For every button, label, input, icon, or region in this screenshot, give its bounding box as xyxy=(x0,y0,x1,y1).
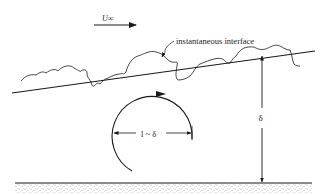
instantaneous-interface-curve xyxy=(21,45,300,86)
eddy-arrowhead-icon xyxy=(156,91,166,97)
thickness-dimension: δ xyxy=(259,56,263,182)
interface-label: instantaneous interface xyxy=(176,36,254,46)
boundary-layer-diagram: U∞ instantaneous interface l ~ δ δ xyxy=(0,0,325,195)
eddy-scale-label: l ~ δ xyxy=(141,129,156,139)
thickness-label: δ xyxy=(259,113,263,123)
freestream-label: U∞ xyxy=(102,14,114,23)
mean-edge-line xyxy=(12,51,315,93)
large-eddy: l ~ δ xyxy=(112,91,192,171)
wall xyxy=(15,183,312,193)
wall-hatch xyxy=(15,183,312,193)
freestream-velocity: U∞ xyxy=(94,14,136,25)
interface-leader-line xyxy=(162,41,174,57)
interface-annotation: instantaneous interface xyxy=(162,36,254,57)
